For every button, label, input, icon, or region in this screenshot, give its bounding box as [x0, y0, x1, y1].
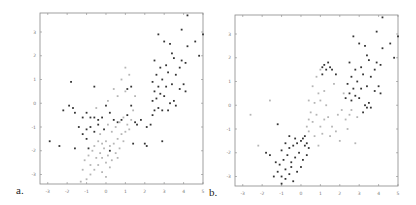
data-point — [269, 100, 271, 102]
data-point — [349, 114, 351, 116]
data-point — [314, 102, 316, 104]
data-point — [352, 88, 354, 90]
data-point — [101, 157, 103, 159]
data-point — [283, 159, 285, 161]
data-point — [124, 67, 126, 69]
data-point — [113, 88, 115, 90]
data-point — [318, 145, 320, 147]
data-point — [351, 109, 353, 111]
data-point — [93, 131, 95, 133]
data-point — [109, 145, 111, 147]
data-point — [269, 154, 271, 156]
data-point — [84, 159, 86, 161]
data-point — [136, 124, 138, 126]
panel-label-a: a. — [16, 184, 24, 196]
y-tick-label: -1 — [227, 127, 232, 132]
data-point — [99, 152, 101, 154]
y-tick-label: -3 — [32, 172, 37, 177]
x-tick-label: -1 — [279, 191, 284, 196]
data-point — [152, 114, 154, 116]
data-point — [119, 147, 121, 149]
x-tick-label: 5 — [202, 189, 205, 194]
data-point — [93, 145, 95, 147]
data-point — [351, 76, 353, 78]
data-point — [115, 126, 117, 128]
data-point — [308, 100, 310, 102]
x-tick-label: 3 — [358, 191, 361, 196]
data-point — [288, 147, 290, 149]
data-point — [356, 116, 358, 118]
data-point — [362, 73, 364, 75]
data-point — [308, 119, 310, 121]
data-point — [306, 142, 308, 144]
x-tick-label: 4 — [377, 191, 380, 196]
data-point — [380, 64, 382, 66]
data-point — [321, 133, 323, 135]
data-point — [376, 62, 378, 64]
data-point — [181, 29, 183, 31]
data-point — [314, 135, 316, 137]
data-point — [288, 173, 290, 175]
data-point — [134, 95, 136, 97]
data-point — [152, 81, 154, 83]
data-point — [366, 85, 368, 87]
data-point — [171, 83, 173, 85]
data-point — [93, 86, 95, 88]
data-point — [132, 143, 134, 145]
data-point — [374, 90, 376, 92]
data-point — [105, 105, 107, 107]
data-point — [130, 119, 132, 121]
data-point — [123, 117, 125, 119]
data-point — [121, 79, 123, 81]
data-point — [152, 100, 154, 102]
y-tick-label: 1 — [33, 77, 36, 82]
x-tick-label: 2 — [143, 189, 146, 194]
data-point — [169, 102, 171, 104]
x-tick-label: 0 — [105, 189, 108, 194]
data-point — [154, 60, 156, 62]
data-point — [368, 102, 370, 104]
data-point — [105, 176, 107, 178]
data-point — [123, 140, 125, 142]
data-point — [88, 147, 90, 149]
data-point — [159, 67, 161, 69]
x-tick-label: -3 — [241, 191, 246, 196]
data-point — [157, 86, 159, 88]
plot-frame — [40, 13, 203, 184]
data-point — [378, 85, 380, 87]
data-point — [292, 180, 294, 182]
data-point — [173, 100, 175, 102]
data-point — [273, 176, 275, 178]
data-point — [337, 114, 339, 116]
data-point — [150, 124, 152, 126]
data-point — [119, 121, 121, 123]
data-point — [97, 164, 99, 166]
data-point — [187, 45, 189, 47]
y-tick-label: 2 — [33, 53, 36, 58]
data-point — [97, 140, 99, 142]
data-point — [187, 14, 189, 16]
data-point — [354, 69, 356, 71]
data-point — [132, 109, 134, 111]
data-point — [285, 168, 287, 170]
data-point — [364, 45, 366, 47]
x-tick-label: 3 — [163, 189, 166, 194]
data-point — [82, 169, 84, 171]
data-point — [380, 92, 382, 94]
data-point — [265, 152, 267, 154]
data-point — [91, 150, 93, 152]
data-point — [74, 147, 76, 149]
data-point — [128, 74, 130, 76]
data-point — [360, 88, 362, 90]
data-point — [121, 119, 123, 121]
data-point — [95, 157, 97, 159]
data-point — [277, 123, 279, 125]
data-point — [167, 71, 169, 73]
data-point — [304, 145, 306, 147]
x-tick-label: -3 — [46, 189, 51, 194]
data-point — [382, 47, 384, 49]
data-point — [154, 90, 156, 92]
data-point — [319, 100, 321, 102]
y-tick-label: 2 — [228, 55, 231, 60]
data-point — [250, 114, 252, 116]
